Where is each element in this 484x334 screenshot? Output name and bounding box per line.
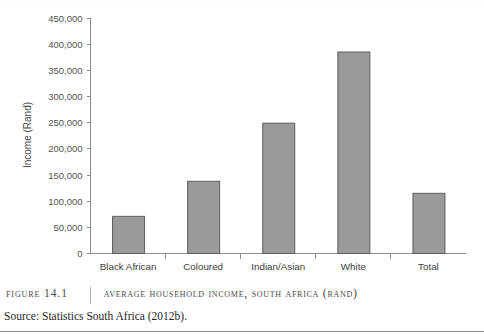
- x-axis-ticks: [166, 254, 391, 259]
- y-tick-label: 150,000: [48, 170, 82, 181]
- y-axis-ticks: 050,000100,000150,000200,000250,000300,0…: [48, 13, 90, 260]
- y-tick-label: 300,000: [48, 91, 82, 102]
- bar: [113, 216, 145, 253]
- figure-title-label: Average Household Income, South Africa (…: [104, 286, 358, 301]
- y-tick-label: 350,000: [48, 65, 82, 76]
- bar: [413, 193, 445, 253]
- figure-panel: 050,000100,000150,000200,000250,000300,0…: [0, 0, 484, 282]
- source-note: Source: Statistics South Africa (2012b).: [4, 310, 187, 322]
- caption-divider: [90, 287, 91, 304]
- y-tick-label: 200,000: [48, 143, 82, 154]
- bar: [188, 181, 220, 253]
- x-tick-label: Coloured: [183, 261, 223, 272]
- x-tick-label: Indian/Asian: [251, 261, 305, 272]
- x-tick-label: White: [341, 261, 367, 272]
- y-tick-label: 450,000: [48, 13, 82, 24]
- y-tick-label: 50,000: [53, 222, 82, 233]
- bar-series: [113, 52, 445, 253]
- y-tick-label: 400,000: [48, 39, 82, 50]
- footer-rule: [0, 331, 484, 332]
- x-tick-label: Total: [418, 261, 439, 272]
- figure-number-label: FIGURE 14.1: [6, 287, 68, 299]
- caption-block: FIGURE 14.1 Average Household Income, So…: [0, 282, 484, 334]
- y-tick-label: 250,000: [48, 117, 82, 128]
- x-tick-label: Black African: [100, 261, 157, 272]
- x-axis-tick-labels: Black AfricanColouredIndian/AsianWhiteTo…: [100, 261, 439, 272]
- bar-chart: 050,000100,000150,000200,000250,000300,0…: [0, 0, 484, 282]
- y-tick-label: 100,000: [48, 196, 82, 207]
- figure-caption: FIGURE 14.1 Average Household Income, So…: [6, 286, 358, 305]
- y-tick-label: 0: [77, 248, 82, 259]
- bar: [338, 52, 370, 253]
- y-axis-title: Income (Rand): [22, 102, 33, 168]
- bar: [263, 123, 295, 253]
